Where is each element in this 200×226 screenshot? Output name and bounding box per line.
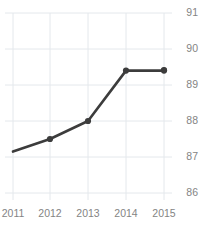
- y-tick-label-86: 86: [186, 187, 198, 198]
- x-tick-label-2012: 2012: [33, 208, 67, 219]
- data-point-2012: [85, 118, 91, 124]
- y-tick-label-88: 88: [186, 115, 198, 126]
- y-tick-label-91: 91: [186, 7, 198, 18]
- y-tick-label-87: 87: [186, 151, 198, 162]
- chart-container: Freedom Trend 91: [0, 0, 200, 226]
- data-point-2011: [47, 136, 53, 142]
- x-tick-label-2014: 2014: [109, 208, 143, 219]
- line-chart-plot: [0, 0, 200, 226]
- y-tick-label-90: 90: [186, 43, 198, 54]
- x-tick-label-2011: 2011: [0, 208, 30, 219]
- data-point-2015: [161, 67, 167, 73]
- vertical-gridlines: [13, 13, 164, 200]
- data-point-2013: [123, 68, 129, 74]
- x-tick-label-2013: 2013: [71, 208, 105, 219]
- x-tick-label-2015: 2015: [147, 208, 181, 219]
- y-tick-label-89: 89: [186, 79, 198, 90]
